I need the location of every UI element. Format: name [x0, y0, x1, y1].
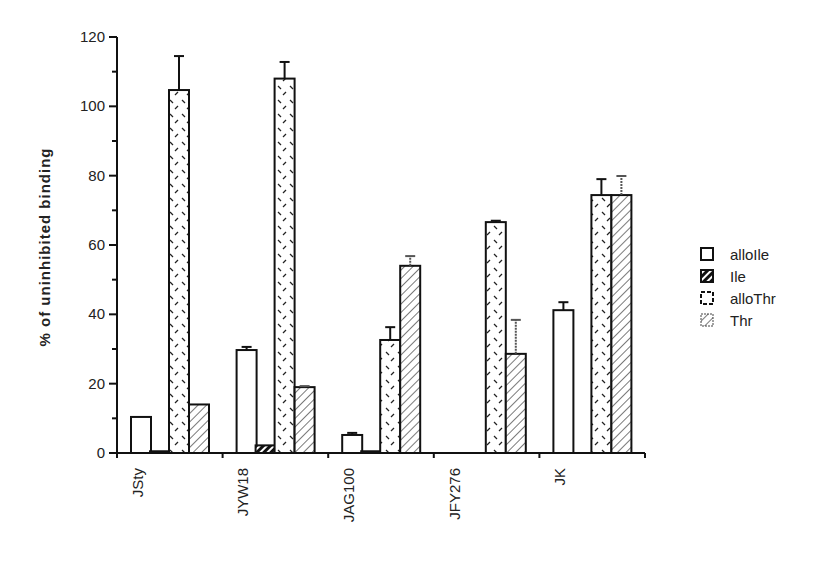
y-tick-label: 120 — [80, 28, 105, 45]
bar-allothr-jk — [591, 195, 611, 453]
light-hatch-swatch-icon — [700, 313, 714, 327]
legend-label: alloIle — [730, 246, 769, 263]
x-category-label: JAG100 — [340, 468, 357, 522]
x-category-label: JYW18 — [234, 468, 251, 516]
legend-item-allothr: alloThr — [700, 287, 776, 309]
y-tick-label: 100 — [80, 97, 105, 114]
bar-allothr-jfy276 — [486, 222, 506, 453]
y-tick-label: 60 — [88, 236, 105, 253]
y-tick-label: 40 — [88, 305, 105, 322]
legend: alloIle Ile alloThr Thr — [700, 243, 776, 331]
bars — [131, 56, 631, 453]
bar-ile-jag100 — [361, 451, 381, 453]
x-category-label: JFY276 — [446, 468, 463, 520]
y-tick-label: 80 — [88, 167, 105, 184]
y-tick-label: 0 — [97, 444, 105, 461]
bar-alloile-jsty — [131, 417, 151, 453]
legend-item-thr: Thr — [700, 309, 776, 331]
bar-thr-jyw18 — [295, 387, 315, 453]
bar-alloile-jyw18 — [237, 350, 257, 453]
bar-alloile-jag100 — [342, 435, 362, 453]
legend-label: alloThr — [730, 290, 776, 307]
bar-ile-jsty — [150, 451, 170, 453]
x-axis: JStyJYW18JAG100JFY276JK — [113, 453, 645, 522]
bar-thr-jk — [611, 195, 631, 453]
legend-label: Ile — [730, 268, 746, 285]
legend-item-ile: Ile — [700, 265, 776, 287]
x-category-label: JK — [551, 468, 568, 486]
bar-alloile-jk — [553, 310, 573, 453]
bar-ile-jyw18 — [256, 445, 276, 453]
bar-allothr-jsty — [169, 90, 189, 453]
legend-label: Thr — [730, 312, 753, 329]
y-tick-label: 20 — [88, 375, 105, 392]
bar-thr-jsty — [189, 404, 209, 453]
bar-allothr-jag100 — [380, 340, 400, 453]
dotted-swatch-icon — [700, 291, 714, 305]
bar-allothr-jyw18 — [275, 79, 295, 453]
bar-thr-jfy276 — [506, 354, 526, 453]
dark-hatch-swatch-icon — [700, 269, 714, 283]
y-axis: 020406080100120 — [80, 28, 117, 461]
x-category-label: JSty — [129, 468, 146, 498]
legend-item-alloile: alloIle — [700, 243, 776, 265]
y-axis-title: % of uninhibited binding — [36, 148, 53, 347]
bar-thr-jag100 — [400, 266, 420, 453]
open-swatch-icon — [700, 247, 714, 261]
